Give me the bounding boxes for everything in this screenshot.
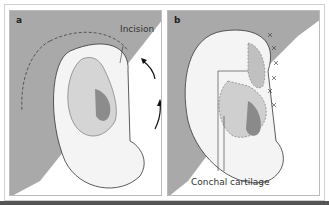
ear-illustration-a	[10, 11, 162, 196]
panel-b: b Conchal cartilage	[167, 10, 320, 196]
panel-a: a Incision	[9, 10, 162, 196]
callout-conchal-cartilage: Conchal cartilage	[191, 177, 269, 187]
callout-incision: Incision	[120, 24, 154, 34]
bottom-rule	[0, 201, 329, 205]
ear-illustration-b	[168, 11, 320, 196]
panel-label-a: a	[16, 15, 22, 25]
panel-label-b: b	[174, 15, 180, 25]
